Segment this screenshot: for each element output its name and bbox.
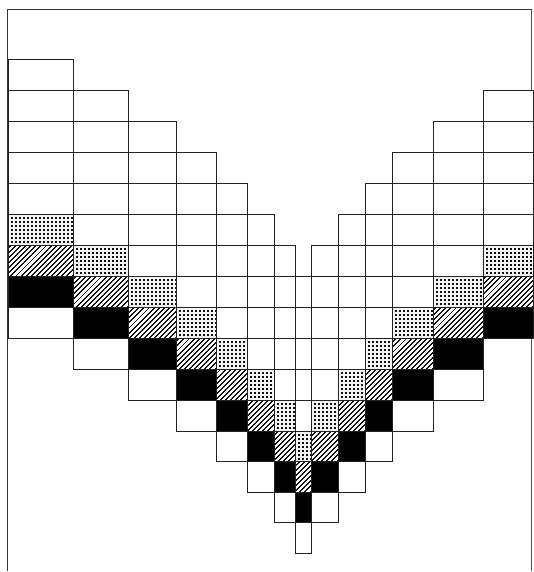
- white-cell: [311, 338, 339, 370]
- white-cell: [73, 90, 129, 122]
- white-cell: [216, 276, 248, 308]
- white-cell: [73, 152, 129, 184]
- white-cell: [365, 276, 393, 308]
- white-cell: [274, 245, 296, 277]
- black-cell: [8, 276, 74, 308]
- white-cell: [73, 183, 129, 215]
- white-cell: [274, 492, 296, 523]
- hatched-cell: [338, 400, 366, 432]
- white-cell: [295, 400, 312, 432]
- hatched-cell: [274, 431, 296, 462]
- dotted-cell: [311, 400, 339, 432]
- white-cell: [483, 121, 534, 153]
- white-cell: [176, 152, 217, 184]
- white-cell: [216, 431, 248, 462]
- white-cell: [311, 245, 339, 277]
- white-cell: [8, 90, 74, 122]
- dotted-cell: [274, 400, 296, 432]
- white-cell: [311, 307, 339, 339]
- white-cell: [392, 400, 434, 432]
- dotted-cell: [338, 369, 366, 401]
- white-cell: [73, 121, 129, 153]
- white-cell: [295, 522, 312, 554]
- white-cell: [73, 214, 129, 246]
- black-cell: [216, 400, 248, 432]
- hatched-cell: [433, 307, 484, 339]
- white-cell: [176, 183, 217, 215]
- white-cell: [295, 338, 312, 370]
- black-cell: [247, 431, 275, 462]
- hatched-cell: [176, 338, 217, 370]
- hatched-cell: [392, 338, 434, 370]
- white-cell: [433, 369, 484, 401]
- white-cell: [247, 461, 275, 493]
- white-cell: [216, 245, 248, 277]
- white-cell: [433, 152, 484, 184]
- white-cell: [8, 183, 74, 215]
- white-cell: [365, 183, 393, 215]
- white-cell: [176, 276, 217, 308]
- white-cell: [338, 245, 366, 277]
- dotted-cell: [247, 369, 275, 401]
- white-cell: [483, 183, 534, 215]
- dotted-cell: [365, 338, 393, 370]
- white-cell: [338, 214, 366, 246]
- white-cell: [128, 369, 177, 401]
- white-cell: [128, 183, 177, 215]
- dotted-cell: [73, 245, 129, 277]
- white-cell: [392, 152, 434, 184]
- black-cell: [128, 338, 177, 370]
- black-cell: [338, 431, 366, 462]
- white-cell: [311, 276, 339, 308]
- white-cell: [365, 307, 393, 339]
- dotted-cell: [295, 431, 312, 462]
- black-cell: [295, 492, 312, 523]
- dotted-cell: [433, 276, 484, 308]
- white-cell: [483, 152, 534, 184]
- black-cell: [311, 461, 339, 493]
- v-staircase-grid: [0, 0, 534, 572]
- white-cell: [295, 276, 312, 308]
- white-cell: [295, 245, 312, 277]
- dotted-cell: [176, 307, 217, 339]
- white-cell: [247, 307, 275, 339]
- black-cell: [365, 400, 393, 432]
- white-cell: [338, 461, 366, 493]
- hatched-cell: [73, 276, 129, 308]
- hatched-cell: [295, 461, 312, 493]
- white-cell: [433, 214, 484, 246]
- white-cell: [483, 214, 534, 246]
- white-cell: [176, 245, 217, 277]
- black-cell: [274, 461, 296, 493]
- white-cell: [247, 338, 275, 370]
- white-cell: [8, 307, 74, 339]
- white-cell: [128, 245, 177, 277]
- white-cell: [433, 183, 484, 215]
- white-cell: [247, 214, 275, 246]
- white-cell: [392, 183, 434, 215]
- white-cell: [8, 152, 74, 184]
- hatched-cell: [311, 431, 339, 462]
- white-cell: [216, 307, 248, 339]
- white-cell: [295, 307, 312, 339]
- white-cell: [8, 121, 74, 153]
- white-cell: [176, 214, 217, 246]
- white-cell: [274, 307, 296, 339]
- white-cell: [365, 214, 393, 246]
- white-cell: [295, 369, 312, 401]
- white-cell: [365, 431, 393, 462]
- white-cell: [274, 338, 296, 370]
- white-cell: [311, 369, 339, 401]
- white-cell: [128, 214, 177, 246]
- white-cell: [311, 492, 339, 523]
- white-cell: [338, 276, 366, 308]
- white-cell: [433, 245, 484, 277]
- white-cell: [365, 245, 393, 277]
- white-cell: [392, 245, 434, 277]
- black-cell: [73, 307, 129, 339]
- hatched-cell: [128, 307, 177, 339]
- white-cell: [338, 307, 366, 339]
- dotted-cell: [8, 214, 74, 246]
- hatched-cell: [216, 369, 248, 401]
- white-cell: [274, 276, 296, 308]
